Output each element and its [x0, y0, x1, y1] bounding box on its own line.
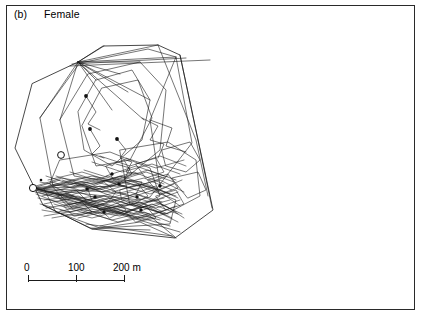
scale-bar-tick [124, 275, 125, 282]
scale-bar-tick [76, 275, 77, 282]
scale-tick-label-200: 200 m [113, 262, 141, 273]
figure-panel: (b) Female [0, 0, 424, 318]
panel-title: Female [44, 8, 80, 20]
scale-tick-label-100: 100 [68, 262, 85, 273]
panel-letter-label: (b) [14, 8, 27, 20]
scale-bar: 0 100 200 m [20, 262, 150, 292]
scale-bar-tick [28, 275, 29, 282]
scale-tick-label-0: 0 [24, 262, 30, 273]
